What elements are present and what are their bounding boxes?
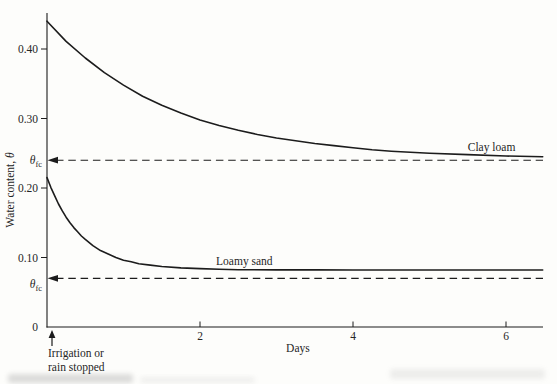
scan-smudge [8,374,133,383]
soil-drainage-chart: θfcθfcClay loamLoamy sand00.100.200.300.… [0,0,557,384]
scan-smudge [140,377,255,383]
x-tick-label: 4 [350,330,356,342]
left-arrowhead-icon [48,275,59,282]
y-tick-label: 0.30 [18,113,38,125]
x-tick-label: 6 [503,330,509,342]
annotation-line-2: rain stopped [48,361,105,374]
curve-loamy-sand [47,178,543,270]
x-axis-title: Days [286,342,310,355]
y-tick-label: 0.10 [18,252,38,264]
scan-smudge [390,369,545,379]
curve-label-clay-loam: Clay loam [468,141,516,154]
up-arrowhead-icon [49,330,56,338]
chart-layer: θfcθfcClay loamLoamy sand00.100.200.300.… [4,13,543,374]
y-tick-label: 0 [32,321,38,333]
x-tick-label: 2 [197,330,203,342]
figure-container: θfcθfcClay loamLoamy sand00.100.200.300.… [0,0,557,384]
curve-clay-loam [47,21,543,157]
left-arrowhead-icon [48,157,59,164]
curve-label-loamy-sand: Loamy sand [216,255,273,268]
theta-fc-label: θfc [30,154,42,169]
y-tick-label: 0.40 [18,43,38,55]
y-axis-title: Water content, θ [4,152,17,228]
theta-fc-label: θfc [30,278,42,293]
annotation-line-1: Irrigation or [48,347,104,360]
y-tick-label: 0.20 [18,182,38,194]
